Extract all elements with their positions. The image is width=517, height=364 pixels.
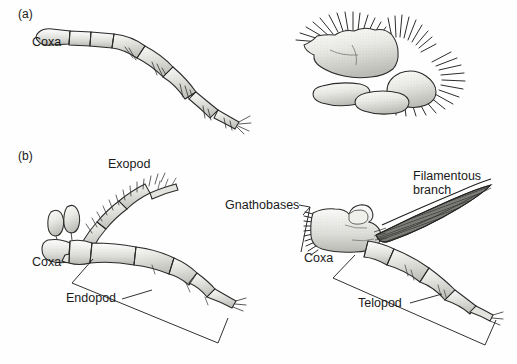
coxa-label-a: Coxa [32, 35, 61, 49]
panel-b-label: (b) [18, 149, 33, 163]
endopod-label: Endopod [66, 291, 116, 305]
panel-a-label: (a) [18, 7, 33, 21]
limb-segment-3 [90, 32, 114, 48]
coxa-label-b-right: Coxa [304, 251, 333, 265]
figure-canvas: (a) [0, 0, 517, 364]
filamentous-branch-label-line1: Filamentous [413, 169, 481, 183]
basis-segment-left [69, 240, 92, 264]
limb-segment-2 [69, 31, 91, 46]
phyllopod-ventral-lobe-2 [355, 91, 409, 114]
figure-svg: (a) [0, 0, 517, 364]
gnathobases-label: Gnathobases [225, 198, 299, 212]
coxa-label-b-left: Coxa [32, 255, 61, 269]
telopod-label: Telopod [358, 296, 402, 310]
filamentous-branch-label-line2: branch [413, 183, 451, 197]
exopod-label: Exopod [108, 157, 150, 171]
